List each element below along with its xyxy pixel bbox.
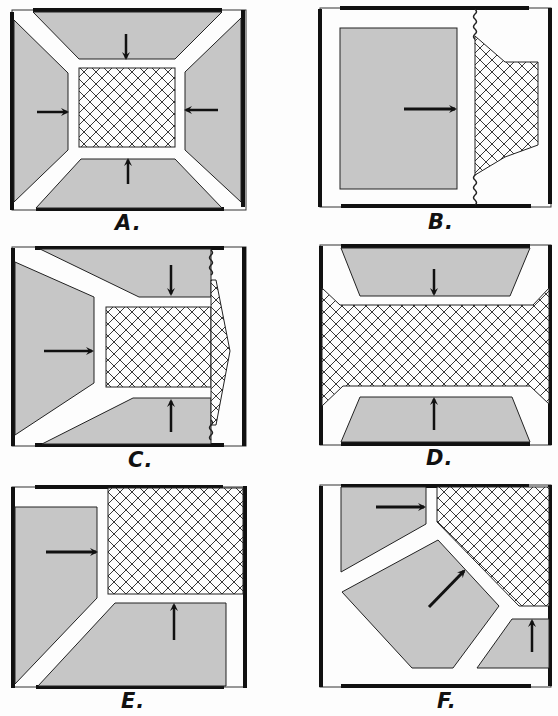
panel-b — [320, 8, 551, 207]
panel-c — [12, 247, 246, 446]
panel-label-c: C. — [128, 448, 153, 472]
panel-label-e: E. — [121, 689, 145, 713]
panel-d — [320, 245, 551, 445]
panel-label-a: A. — [115, 211, 142, 235]
diagram-canvas — [0, 0, 558, 716]
panel-label-b: B. — [428, 210, 454, 234]
panel-label-f: F. — [437, 689, 457, 713]
panel-a — [12, 10, 246, 210]
panel-e — [12, 486, 246, 688]
panel-f — [320, 485, 551, 687]
panel-label-d: D. — [426, 446, 453, 470]
